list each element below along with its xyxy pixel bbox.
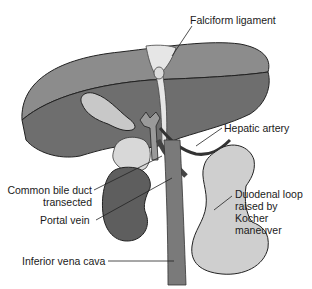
label-hepatic-artery: Hepatic artery [224, 122, 289, 134]
label-duodenal-loop-line3: Kocher [235, 212, 303, 224]
label-duodenal-loop-line4: maneuver [235, 224, 303, 236]
pancreas-tissue [113, 137, 150, 171]
label-common-bile-duct: Common bile duct transected [2, 184, 92, 208]
label-falciform-ligament: Falciform ligament [190, 14, 276, 26]
label-portal-vein: Portal vein [40, 214, 90, 226]
label-common-bile-duct-line2: transected [2, 196, 92, 208]
ligamentum-teres [154, 67, 164, 79]
label-duodenal-loop-line2: raised by [235, 200, 303, 212]
label-inferior-vena-cava: Inferior vena cava [22, 255, 105, 267]
label-duodenal-loop-line1: Duodenal loop [235, 188, 303, 200]
anatomy-illustration [0, 0, 312, 289]
inferior-vena-cava-vessel [164, 140, 186, 285]
label-common-bile-duct-line1: Common bile duct [2, 184, 92, 196]
kidney [102, 167, 150, 241]
label-duodenal-loop: Duodenal loop raised by Kocher maneuver [235, 188, 303, 236]
